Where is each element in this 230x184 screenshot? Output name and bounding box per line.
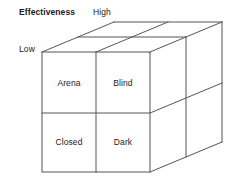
cube-drawing [0, 0, 230, 184]
effectiveness-axis-label: Effectiveness [19, 7, 75, 17]
high-axis-label: High [93, 7, 111, 17]
quadrant-label-dark: Dark [97, 137, 149, 147]
low-axis-label: Low [19, 44, 35, 54]
quadrant-label-blind: Blind [97, 78, 149, 88]
quadrant-label-closed: Closed [43, 137, 95, 147]
johari-window-diagram: Effectiveness High Low Arena Blind Close… [0, 0, 230, 184]
quadrant-label-arena: Arena [43, 78, 95, 88]
